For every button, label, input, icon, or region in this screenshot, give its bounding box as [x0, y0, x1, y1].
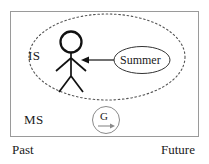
- summer-to-actor-arrow: [81, 57, 114, 64]
- axis-label-past: Past: [12, 143, 34, 156]
- dashed-boundary-ellipse: [29, 14, 185, 100]
- stick-figure: [56, 32, 86, 93]
- g-node-inner-arrow-head-icon: [110, 124, 115, 129]
- summer-node-label: Summer: [120, 54, 161, 66]
- region-label-is: IS: [28, 49, 41, 62]
- stick-figure-leg-left: [59, 76, 71, 92]
- g-node-label: G: [100, 111, 108, 122]
- stick-figure-arm-left: [56, 58, 71, 71]
- stick-figure-head-icon: [61, 32, 82, 53]
- diagram-canvas: IS MS Summer G Past Future: [0, 0, 209, 164]
- axis-label-future: Future: [161, 143, 195, 156]
- stick-figure-leg-right: [71, 76, 83, 92]
- arrow-head-icon: [81, 57, 89, 64]
- diagram-graphics: [0, 0, 209, 164]
- region-label-ms: MS: [24, 113, 44, 126]
